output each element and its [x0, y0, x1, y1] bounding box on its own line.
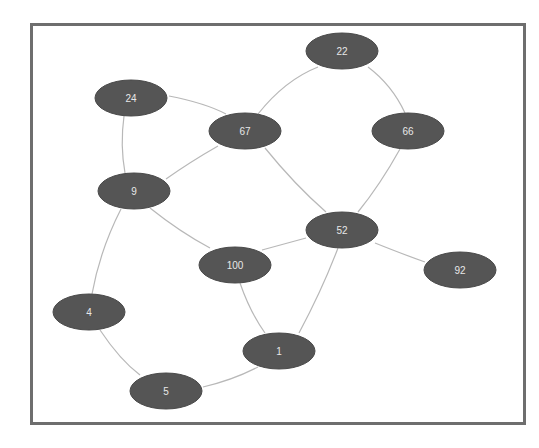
edge-66-52	[358, 149, 400, 212]
node-52[interactable]: 52	[306, 212, 378, 248]
edge-52-1	[299, 248, 338, 333]
edge-67-22	[258, 67, 318, 114]
node-67[interactable]: 67	[209, 113, 281, 149]
node-label: 67	[239, 126, 251, 137]
node-92[interactable]: 92	[424, 252, 496, 288]
node-label: 24	[125, 93, 137, 104]
edge-100-1	[240, 283, 265, 333]
node-66[interactable]: 66	[372, 113, 444, 149]
edge-9-4	[92, 209, 121, 294]
node-label: 22	[336, 46, 348, 57]
edge-67-9	[166, 146, 218, 179]
node-5[interactable]: 5	[130, 373, 202, 409]
node-9[interactable]: 9	[98, 173, 170, 209]
node-1[interactable]: 1	[243, 333, 315, 369]
edge-5-1	[203, 367, 258, 387]
nodes-layer: 2224676695210092415	[53, 33, 496, 409]
node-label: 1	[276, 346, 282, 357]
node-24[interactable]: 24	[95, 80, 167, 116]
node-label: 52	[336, 225, 348, 236]
node-22[interactable]: 22	[306, 33, 378, 69]
node-label: 9	[131, 186, 137, 197]
edge-4-5	[100, 330, 140, 375]
node-4[interactable]: 4	[53, 294, 125, 330]
edge-24-9	[122, 116, 125, 173]
node-label: 100	[227, 260, 244, 271]
node-label: 66	[402, 126, 414, 137]
node-label: 92	[454, 265, 466, 276]
edge-52-92	[375, 243, 425, 262]
node-label: 4	[86, 307, 92, 318]
edge-24-67	[169, 96, 226, 114]
edge-22-66	[368, 67, 405, 113]
edge-100-52	[262, 238, 306, 250]
edge-9-100	[150, 208, 210, 248]
node-100[interactable]: 100	[199, 247, 271, 283]
edge-67-52	[265, 148, 326, 212]
graph-canvas: 2224676695210092415	[0, 0, 539, 448]
node-label: 5	[163, 386, 169, 397]
